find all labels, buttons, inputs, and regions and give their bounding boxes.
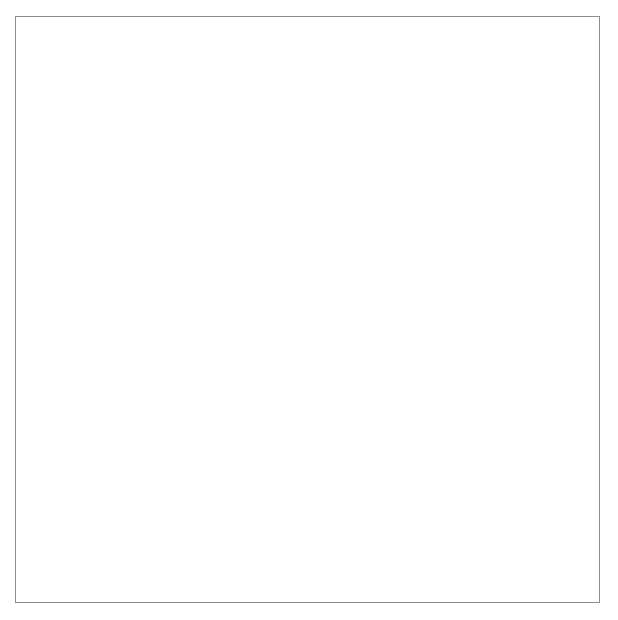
figure-page xyxy=(0,0,618,620)
figure-border-frame xyxy=(15,16,600,603)
